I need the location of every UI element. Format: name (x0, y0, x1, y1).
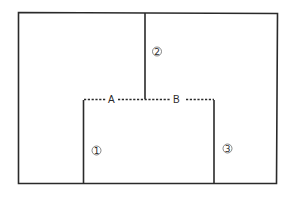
diagram-canvas: A B 2 1 3 (0, 0, 292, 199)
segment-1-marker: 1 (92, 146, 101, 156)
segment-3-marker: 3 (223, 144, 232, 154)
segment-1-label: 1 (94, 146, 100, 156)
point-a-label: A (108, 94, 115, 105)
segment-2-marker: 2 (153, 47, 162, 57)
point-b-label: B (173, 94, 180, 105)
outer-rectangle (19, 13, 278, 184)
segment-3-label: 3 (225, 144, 231, 154)
segment-2-label: 2 (154, 47, 160, 57)
